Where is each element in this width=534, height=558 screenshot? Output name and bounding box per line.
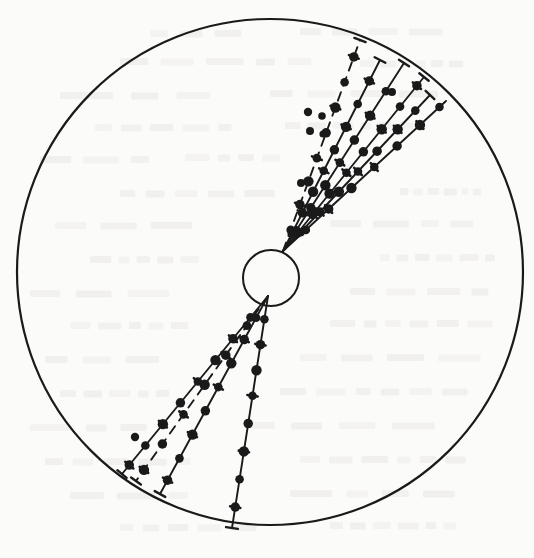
ghost-text-fragment <box>218 155 230 162</box>
ghost-text-fragment <box>300 354 327 361</box>
track-hit-dot <box>392 141 402 151</box>
track-hit-dot <box>175 454 184 463</box>
ghost-text-fragment <box>426 522 437 529</box>
ghost-text-fragment <box>150 30 168 37</box>
track-end-tick <box>155 491 166 497</box>
tracks-layer <box>117 38 446 529</box>
isolated-hit-dot <box>306 127 314 135</box>
ghost-text-fragment <box>131 93 158 100</box>
ghost-text-fragment <box>373 522 391 529</box>
ghost-text-fragment <box>392 423 435 430</box>
track-hit-dot <box>235 475 244 484</box>
ghost-text-fragment <box>409 388 431 395</box>
ghost-text-fragment <box>175 190 198 197</box>
ghost-text-fragment <box>70 322 90 329</box>
track-hit-dot <box>308 187 318 197</box>
track-hit-dot <box>396 102 405 111</box>
track-hit-dot <box>359 147 369 157</box>
ghost-text-fragment <box>151 222 193 229</box>
ghost-text-fragment <box>443 523 456 530</box>
ghost-text-fragment <box>138 391 149 398</box>
track-hit-dot <box>330 145 340 155</box>
ghost-text-fragment <box>427 188 439 195</box>
ghost-text-fragment <box>385 320 401 327</box>
ghost-text-fragment <box>449 61 463 68</box>
ghost-text-fragment <box>396 255 408 262</box>
ghost-text-fragment <box>290 490 332 497</box>
ghost-text-fragment <box>146 191 165 198</box>
ghost-text-fragment <box>206 58 243 65</box>
isolated-hit-dot <box>319 130 326 137</box>
ghost-text-fragment <box>329 457 352 464</box>
ghost-text-fragment <box>400 188 408 195</box>
ghost-text-fragment <box>98 323 121 330</box>
track-tick-mark <box>230 506 240 508</box>
figure-container <box>0 0 534 558</box>
ghost-text-fragment <box>131 156 149 163</box>
track-tick-mark <box>239 451 249 453</box>
ghost-text-fragment <box>431 60 443 67</box>
ghost-text-fragment <box>55 222 86 229</box>
ghost-text-fragment <box>168 524 188 531</box>
ghost-text-fragment <box>280 388 306 395</box>
ghost-text-fragment <box>262 155 280 162</box>
ghost-text-fragment <box>214 30 241 37</box>
track-hit-dot <box>201 406 211 416</box>
ghost-text-fragment <box>421 220 439 227</box>
ghost-text-fragment <box>444 189 457 196</box>
ghost-text-fragment <box>161 59 194 66</box>
ghost-text-fragment <box>171 322 188 329</box>
track-hit-dot <box>243 419 253 429</box>
ghost-text-fragment <box>288 58 312 65</box>
ghost-text-fragment <box>197 525 220 532</box>
isolated-hit-dot <box>304 108 312 116</box>
track-hit-dot <box>141 441 150 450</box>
isolated-hit-dot <box>131 433 139 441</box>
ghost-text-fragment <box>120 524 134 531</box>
ghost-text-fragment <box>149 323 164 330</box>
ghost-text-fragment <box>397 457 411 464</box>
ghost-text-fragment <box>60 390 76 397</box>
track-hit-dot <box>372 146 382 156</box>
ghost-text-fragment <box>300 28 321 35</box>
ghost-text-fragment <box>30 290 60 297</box>
ghost-text-fragment <box>128 290 170 297</box>
ghost-text-fragment <box>459 254 478 261</box>
ghost-text-fragment <box>360 60 374 67</box>
track-tick-mark <box>247 395 257 397</box>
ghost-text-fragment <box>86 425 107 432</box>
track-hit-dot <box>303 176 313 186</box>
ghost-text-layer <box>30 28 495 532</box>
ghost-text-fragment <box>157 257 173 264</box>
ghost-text-fragment <box>330 320 355 327</box>
ghost-text-fragment <box>330 522 343 529</box>
ghost-text-fragment <box>83 391 102 398</box>
ghost-text-fragment <box>423 491 455 498</box>
ghost-text-fragment <box>291 423 322 430</box>
track-hit-dot <box>353 100 362 109</box>
ghost-text-fragment <box>351 90 385 97</box>
ghost-text-fragment <box>427 288 460 295</box>
ghost-text-fragment <box>409 29 442 36</box>
ghost-text-fragment <box>420 456 437 463</box>
track-hit-dot <box>251 365 261 375</box>
ghost-text-fragment <box>126 356 160 363</box>
track-hit-dot <box>340 78 349 87</box>
ghost-text-fragment <box>436 255 453 262</box>
ghost-text-fragment <box>300 456 320 463</box>
track-hit-dot <box>346 183 356 193</box>
ghost-text-fragment <box>119 257 130 264</box>
ghost-text-fragment <box>387 354 424 361</box>
track-hit-dot <box>199 380 209 390</box>
ghost-text-fragment <box>347 491 368 498</box>
ghost-text-fragment <box>83 157 119 164</box>
ghost-text-fragment <box>168 492 188 499</box>
ghost-text-fragment <box>121 125 141 132</box>
track-hit-dot <box>435 103 444 112</box>
ghost-text-fragment <box>330 220 361 227</box>
track-hit-dot <box>226 358 236 368</box>
ghost-text-fragment <box>413 189 423 196</box>
ghost-text-fragment <box>244 190 274 197</box>
track-hit-dot <box>158 439 168 449</box>
ghost-text-fragment <box>137 256 150 263</box>
